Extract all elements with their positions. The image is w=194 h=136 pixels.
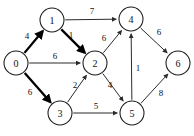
edge-weight-4-6: 6 (157, 27, 162, 37)
edge-weight-5-6: 8 (159, 88, 164, 98)
graph-node-4[interactable]: 4 (119, 7, 143, 31)
edge-weight-5-4: 1 (136, 63, 141, 73)
edge-weight-3-5: 5 (94, 101, 99, 111)
graph-diagram: 466176425618 0123456 (0, 0, 194, 136)
node-label-2: 2 (93, 58, 98, 69)
node-label-5: 5 (130, 108, 135, 119)
edge-weight-2-4: 6 (102, 33, 107, 43)
node-label-0: 0 (14, 58, 19, 69)
graph-node-5[interactable]: 5 (120, 101, 144, 125)
edge-weight-1-4: 7 (90, 6, 95, 16)
edge-5-4 (131, 34, 132, 100)
edge-5-6 (141, 74, 168, 103)
node-label-6: 6 (176, 58, 181, 69)
graph-node-1[interactable]: 1 (40, 8, 64, 32)
graph-node-2[interactable]: 2 (83, 51, 107, 75)
node-label-4: 4 (129, 14, 134, 25)
node-label-1: 1 (50, 15, 55, 26)
graph-node-3[interactable]: 3 (48, 101, 72, 125)
node-label-3: 3 (58, 108, 63, 119)
edge-1-4 (65, 19, 116, 20)
edge-weight-2-5: 4 (108, 80, 113, 90)
edge-weight-0-2: 6 (53, 51, 58, 61)
edge-weight-3-2: 2 (73, 80, 78, 90)
edge-weight-0-1: 4 (25, 31, 30, 41)
graph-node-6[interactable]: 6 (166, 51, 190, 75)
graph-node-0[interactable]: 0 (4, 51, 28, 75)
edge-2-5 (103, 74, 123, 102)
edge-4-6 (141, 28, 168, 53)
edge-weight-1-2: 1 (69, 30, 74, 40)
graph-canvas: 466176425618 0123456 (0, 0, 194, 136)
edge-weight-0-3: 6 (28, 87, 33, 97)
